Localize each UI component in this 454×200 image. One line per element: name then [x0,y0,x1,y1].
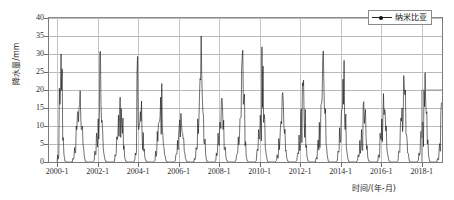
legend-label-namibia: 纳米比亚 [395,14,427,22]
y-tick-label-5: 5 [22,140,44,148]
x-tick-label-2010-1: 2010-1 [248,168,271,176]
x-tick-mark-2010 [260,163,261,167]
x-tick-label-2000-1: 2000-1 [46,168,69,176]
x-tick-label-2008-1: 2008-1 [208,168,231,176]
x-tick-mark-2004 [138,163,139,167]
x-tick-mark-2012 [300,163,301,167]
x-tick-label-2002-1: 2002-1 [86,168,109,176]
y-tick-label-35: 35 [22,32,44,40]
y-tick-label-10: 10 [22,122,44,130]
x-tick-mark-2018 [422,163,423,167]
x-tick-mark-2008 [219,163,220,167]
x-tick-label-2014-1: 2014-1 [329,168,352,176]
y-tick-label-20: 20 [22,86,44,94]
x-tick-mark-2006 [179,163,180,167]
chart-legend[interactable]: 纳米比亚 [368,10,432,25]
legend-line-marker-icon [372,17,392,18]
x-tick-label-2004-1: 2004-1 [127,168,150,176]
annotation-layer [49,18,442,162]
x-tick-mark-2002 [98,163,99,167]
plot-area [48,17,443,163]
y-tick-label-40: 40 [22,14,44,22]
y-tick-label-0: 0 [22,158,44,166]
y-tick-label-15: 15 [22,104,44,112]
y-tick-label-25: 25 [22,68,44,76]
x-tick-mark-2000 [57,163,58,167]
x-tick-mark-2016 [381,163,382,167]
x-tick-mark-2014 [341,163,342,167]
x-tick-label-2018-1: 2018-1 [410,168,433,176]
x-tick-label-2006-1: 2006-1 [167,168,190,176]
x-axis-title: 时间/(年-月) [352,182,396,193]
chart-figure: 降水量/mm 时间/(年-月) 0510152025303540 2000-12… [0,0,454,200]
y-tick-label-30: 30 [22,50,44,58]
x-tick-label-2012-1: 2012-1 [289,168,312,176]
x-tick-label-2016-1: 2016-1 [370,168,393,176]
y-axis-title: 降水量/mm [10,29,21,99]
